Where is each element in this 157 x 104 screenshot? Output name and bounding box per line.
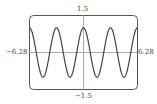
y-min-label: −1.5 [75, 92, 92, 100]
x-max-label: 6.28 [138, 48, 154, 56]
y-max-label: 1.5 [77, 5, 88, 13]
x-min-label: −6.28 [6, 48, 27, 56]
